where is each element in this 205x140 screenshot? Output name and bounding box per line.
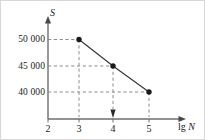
data-point-marker bbox=[76, 37, 81, 42]
y-axis-title: S bbox=[50, 8, 55, 18]
data-point-marker bbox=[110, 63, 115, 68]
annotation-down-arrow bbox=[110, 110, 115, 119]
horizontal-guides-group bbox=[48, 40, 149, 93]
x-tick-label-4: 4 bbox=[106, 124, 120, 134]
x-axis-title-prefix: lg bbox=[178, 121, 186, 132]
axes-group bbox=[45, 16, 186, 122]
x-tick-label-3: 3 bbox=[72, 124, 86, 134]
x-axis-title-variable: N bbox=[188, 121, 195, 132]
y-tick-label-45000: 45 000 bbox=[6, 62, 45, 72]
data-point-marker bbox=[146, 89, 151, 94]
y-tick-label-50000: 50 000 bbox=[6, 35, 45, 45]
x-tick-label-5: 5 bbox=[142, 124, 156, 134]
y-tick-label-40000: 40 000 bbox=[6, 88, 45, 98]
x-axis-title: lg N bbox=[178, 122, 195, 132]
chart-figure: S 50 000 45 000 40 000 2 3 4 5 lg N bbox=[0, 0, 205, 140]
x-tick-label-2: 2 bbox=[41, 124, 55, 134]
vertical-guides-group bbox=[79, 40, 149, 118]
